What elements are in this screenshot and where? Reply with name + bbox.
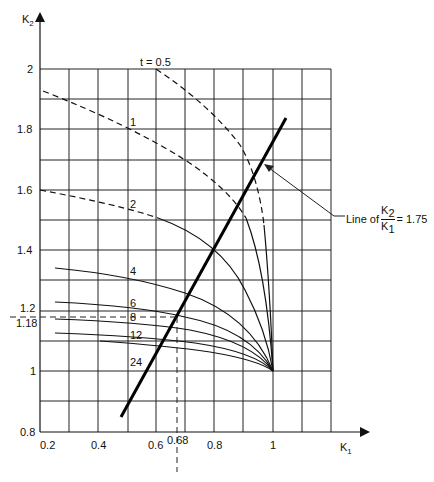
grid: [40, 69, 331, 432]
curve-label-4: 4: [130, 266, 136, 277]
x-tick-1: 1: [270, 440, 276, 451]
chart-canvas: [0, 0, 434, 482]
x-tick-0.68: 0.68: [167, 435, 188, 446]
x-tick-0.8: 0.8: [207, 440, 222, 451]
y-axis-arrow-icon: [35, 12, 45, 22]
x-axis-title: K1: [340, 442, 352, 456]
y-tick-1: 1: [30, 366, 36, 377]
ratio-line-label: Line of K2 K1 = 1.75: [346, 204, 427, 235]
curve-label-6: 6: [130, 298, 136, 309]
y-tick-1.18: 1.18: [16, 318, 37, 329]
x-axis-arrow-icon: [360, 427, 370, 437]
x-tick-0.6: 0.6: [148, 440, 163, 451]
y-tick-1.6: 1.6: [17, 185, 32, 196]
x-tick-0.4: 0.4: [91, 440, 106, 451]
y-tick-0.8: 0.8: [20, 427, 35, 438]
curve-label-2: 2: [130, 199, 136, 210]
curve-label-12: 12: [130, 330, 142, 341]
curve-label-24: 24: [130, 357, 142, 368]
curve-t-4: [55, 268, 273, 371]
y-tick-1.4: 1.4: [17, 245, 32, 256]
ratio-line-1.75: [121, 118, 286, 417]
y-axis-title: K2: [22, 14, 34, 28]
curve-t-2: [40, 190, 158, 218]
ratio-fraction: K2 K1: [381, 204, 394, 235]
x-tick-0.2: 0.2: [40, 440, 55, 451]
curve-label-t-0.5: t = 0.5: [140, 57, 171, 68]
ratio-label-suffix: = 1.75: [397, 214, 428, 225]
y-tick-1.8: 1.8: [17, 124, 32, 135]
y-tick-1.2: 1.2: [20, 303, 35, 314]
curve-t-8: [55, 319, 273, 371]
curve-label-1: 1: [130, 117, 136, 128]
y-tick-2: 2: [27, 64, 33, 75]
curve-label-8: 8: [130, 312, 136, 323]
curve-t-1: [43, 91, 246, 218]
curve-t-0.5: [156, 69, 264, 225]
ratio-label-prefix: Line of: [346, 214, 379, 225]
